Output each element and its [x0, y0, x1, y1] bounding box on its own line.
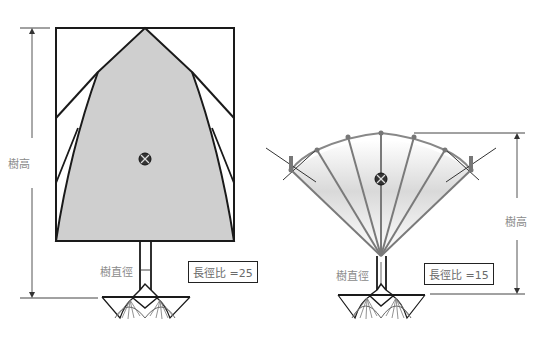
- right-diameter-label: 樹直徑: [336, 267, 369, 283]
- right-tree: [266, 131, 525, 320]
- right-root-system: [338, 284, 425, 319]
- left-root-system: [102, 284, 190, 319]
- left-diameter-label: 樹直徑: [100, 263, 133, 279]
- left-center-of-mass-icon: [139, 153, 151, 165]
- right-center-of-mass-icon: [375, 173, 387, 185]
- right-ratio-box: 長徑比 =15: [424, 263, 494, 285]
- right-height-label: 樹高: [505, 213, 527, 229]
- diagram-canvas: [0, 0, 560, 343]
- left-height-label: 樹高: [8, 155, 30, 171]
- left-ratio-box: 長徑比 =25: [188, 261, 258, 283]
